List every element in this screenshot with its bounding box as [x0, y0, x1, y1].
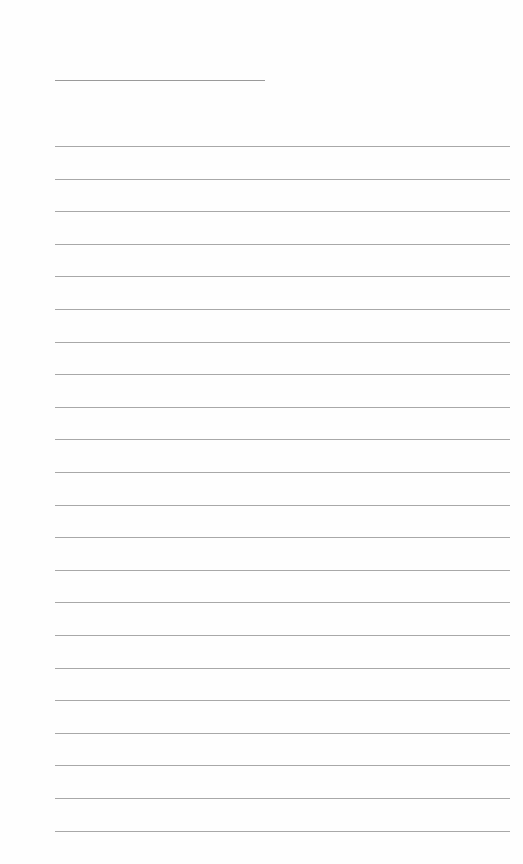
ruled-write-line[interactable]: [55, 342, 510, 343]
ruled-write-line[interactable]: [55, 765, 510, 766]
ruled-write-line[interactable]: [55, 700, 510, 701]
ruled-write-line[interactable]: [55, 570, 510, 571]
ruled-write-line[interactable]: [55, 505, 510, 506]
ruled-write-line[interactable]: [55, 309, 510, 310]
ruled-write-line[interactable]: [55, 244, 510, 245]
ruled-write-line[interactable]: [55, 831, 510, 832]
ruled-write-line[interactable]: [55, 537, 510, 538]
ruled-write-line[interactable]: [55, 179, 510, 180]
ruled-write-line[interactable]: [55, 602, 510, 603]
ruled-write-line[interactable]: [55, 798, 510, 799]
ruled-write-line[interactable]: [55, 439, 510, 440]
title-write-line[interactable]: [55, 80, 265, 81]
ruled-write-line[interactable]: [55, 472, 510, 473]
ruled-write-line[interactable]: [55, 276, 510, 277]
ruled-write-line[interactable]: [55, 668, 510, 669]
ruled-write-line[interactable]: [55, 635, 510, 636]
ruled-write-line[interactable]: [55, 146, 510, 147]
ruled-write-line[interactable]: [55, 407, 510, 408]
ruled-write-line[interactable]: [55, 733, 510, 734]
ruled-write-line[interactable]: [55, 211, 510, 212]
ruled-write-line[interactable]: [55, 374, 510, 375]
lined-paper-page: [0, 0, 523, 864]
